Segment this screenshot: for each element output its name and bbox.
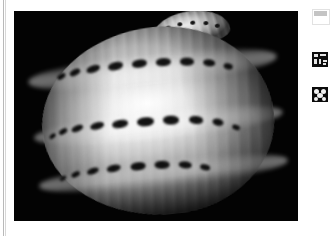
page-root xyxy=(0,0,331,236)
shell-shadow-bottom xyxy=(33,15,283,221)
shell-body-whorl xyxy=(33,15,283,221)
left-margin-rule xyxy=(3,0,4,236)
image-panel[interactable] xyxy=(14,11,298,221)
left-margin-rule-secondary xyxy=(5,0,6,236)
text-thumbnail-icon[interactable] xyxy=(312,52,328,67)
shell-photograph xyxy=(14,11,298,221)
document-thumbnail-bar xyxy=(314,11,327,16)
document-thumbnail-icon[interactable] xyxy=(312,9,330,25)
figure-thumbnail-icon[interactable] xyxy=(312,87,328,102)
sidebar xyxy=(306,0,331,236)
